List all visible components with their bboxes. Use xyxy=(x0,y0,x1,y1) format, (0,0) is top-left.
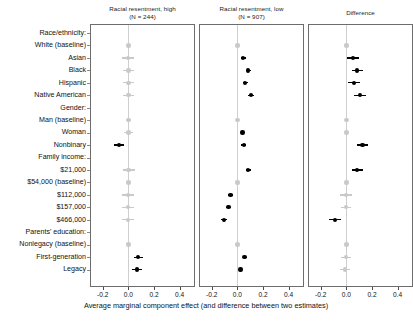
x-tick-mark xyxy=(154,287,155,290)
row-label: Hispanic xyxy=(59,79,86,87)
row-tick xyxy=(87,58,90,59)
point-estimate-dot xyxy=(351,56,355,60)
point-estimate-dot xyxy=(242,255,246,259)
zero-reference-line xyxy=(346,25,347,286)
row-tick xyxy=(87,220,90,221)
panel-plot-area-panel-low xyxy=(199,24,304,287)
panel-title-line1: Racial resentment, high xyxy=(90,5,195,13)
point-estimate-dot xyxy=(126,242,130,246)
point-estimate-dot xyxy=(344,242,348,246)
x-tick-mark xyxy=(237,287,238,290)
point-estimate-dot xyxy=(126,43,130,47)
row-label: Legacy xyxy=(63,265,86,273)
x-tick-label: 0.4 xyxy=(275,291,303,298)
row-tick xyxy=(87,120,90,121)
point-estimate-dot xyxy=(135,267,139,271)
x-tick-label: 0.4 xyxy=(384,291,412,298)
point-estimate-dot xyxy=(126,130,130,134)
x-tick-label: 0.0 xyxy=(114,291,142,298)
row-label: $112,000 xyxy=(57,191,86,199)
row-label: Asian xyxy=(68,54,86,62)
panel-title-panel-high: Racial resentment, high(N = 244) xyxy=(90,5,195,20)
x-tick-label: 0.2 xyxy=(358,291,386,298)
row-tick xyxy=(87,270,90,271)
point-estimate-dot xyxy=(235,43,239,47)
panel-plot-area-panel-difference xyxy=(308,24,413,287)
row-label: Man (baseline) xyxy=(39,116,86,124)
row-tick xyxy=(87,33,90,34)
panel-title-line2: (N = 244) xyxy=(90,13,195,21)
row-tick xyxy=(87,95,90,96)
point-estimate-dot xyxy=(240,130,244,134)
x-tick-label: -0.2 xyxy=(89,291,117,298)
row-tick xyxy=(87,207,90,208)
point-estimate-dot xyxy=(235,242,239,246)
row-tick xyxy=(87,145,90,146)
panel-title-line2: (N = 907) xyxy=(199,13,304,21)
point-estimate-dot xyxy=(126,193,130,197)
x-tick-label: -0.2 xyxy=(198,291,226,298)
point-estimate-dot xyxy=(126,218,130,222)
row-tick xyxy=(87,245,90,246)
panel-plot-area-panel-high xyxy=(90,24,195,287)
point-estimate-dot xyxy=(344,118,348,122)
x-tick-label: 0.4 xyxy=(166,291,194,298)
point-estimate-dot xyxy=(238,267,242,271)
point-estimate-dot xyxy=(126,68,130,72)
row-group-header: Race/ethnicity: xyxy=(39,29,86,37)
row-label: $54,000 (baseline) xyxy=(27,178,86,186)
row-tick xyxy=(87,45,90,46)
x-tick-label: 0.2 xyxy=(249,291,277,298)
row-label: Black xyxy=(69,66,86,74)
x-tick-mark xyxy=(289,287,290,290)
row-label: $157,000 xyxy=(56,203,86,211)
x-tick-mark xyxy=(212,287,213,290)
row-tick xyxy=(87,195,90,196)
point-estimate-dot xyxy=(344,180,348,184)
row-label: White (baseline) xyxy=(35,41,86,49)
row-group-header: Family income: xyxy=(38,153,86,161)
x-tick-mark xyxy=(346,287,347,290)
row-label: Nonbinary xyxy=(54,141,86,149)
row-tick xyxy=(87,108,90,109)
x-tick-label: 0.2 xyxy=(140,291,168,298)
row-group-header: Gender: xyxy=(60,104,86,112)
x-tick-mark xyxy=(103,287,104,290)
panel-title-panel-low: Racial resentment, low(N = 907) xyxy=(199,5,304,20)
row-label: Nonlegacy (baseline) xyxy=(19,240,86,248)
point-estimate-dot xyxy=(126,118,130,122)
x-axis-caption: Average marginal component effect (and d… xyxy=(0,301,412,310)
row-tick xyxy=(87,182,90,183)
row-tick xyxy=(87,83,90,84)
row-label: $21,000 xyxy=(60,166,86,174)
point-estimate-dot xyxy=(235,118,239,122)
panel-title-line1: Difference xyxy=(308,9,413,17)
point-estimate-dot xyxy=(126,93,130,97)
x-tick-label: 0.0 xyxy=(223,291,251,298)
x-tick-label: 0.0 xyxy=(332,291,360,298)
point-estimate-dot xyxy=(126,56,130,60)
row-group-header: Parents' education: xyxy=(25,228,86,236)
row-label: $466,000 xyxy=(56,216,86,224)
zero-reference-line xyxy=(237,25,238,286)
point-estimate-dot xyxy=(228,193,232,197)
row-label: Native American xyxy=(34,91,86,99)
point-estimate-dot xyxy=(126,81,130,85)
row-tick xyxy=(87,170,90,171)
row-tick xyxy=(87,133,90,134)
point-estimate-dot xyxy=(126,168,130,172)
point-estimate-dot xyxy=(222,218,226,222)
x-tick-mark xyxy=(398,287,399,290)
row-label: Woman xyxy=(62,128,86,136)
x-tick-label: -0.2 xyxy=(307,291,335,298)
zero-reference-line xyxy=(128,25,129,286)
row-tick xyxy=(87,232,90,233)
x-tick-mark xyxy=(180,287,181,290)
panel-title-line1: Racial resentment, low xyxy=(199,5,304,13)
point-estimate-dot xyxy=(235,180,239,184)
point-estimate-dot xyxy=(333,218,337,222)
row-tick xyxy=(87,70,90,71)
point-estimate-dot xyxy=(344,43,348,47)
row-label: First-generation xyxy=(36,253,86,261)
